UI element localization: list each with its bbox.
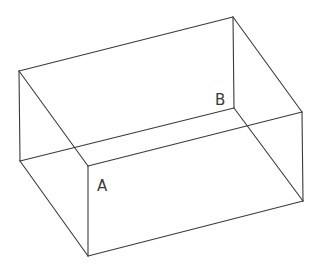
edge-front_bottom_left-to-back_bottom_left xyxy=(20,161,88,256)
label-b: B xyxy=(215,91,225,109)
prism-edges xyxy=(19,17,303,256)
edge-back_top_left-to-back_bottom_left xyxy=(19,71,20,161)
edge-front_top_left-to-back_top_left xyxy=(19,71,88,166)
edge-front_bottom_right-to-front_bottom_left xyxy=(88,201,303,256)
rectangular-prism-diagram: A B xyxy=(0,0,319,271)
edge-back_bottom_right-to-front_bottom_right xyxy=(234,108,303,201)
vertex-labels: A B xyxy=(97,91,225,195)
label-a: A xyxy=(97,177,108,195)
edge-front_top_right-to-front_bottom_right xyxy=(302,112,303,201)
edge-back_top_left-to-back_top_right xyxy=(19,17,233,71)
edge-back_top_right-to-front_top_right xyxy=(233,17,302,112)
edge-back_top_right-to-back_bottom_right xyxy=(233,17,234,108)
edge-front_top_right-to-front_top_left xyxy=(88,112,302,166)
